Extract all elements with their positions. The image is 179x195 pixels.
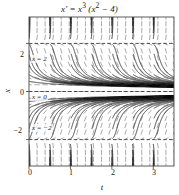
x-axis-label: t (95, 182, 109, 192)
equilibrium-label-middle: x = 0 (31, 93, 48, 101)
y-tick-label-2: 2 (8, 50, 24, 59)
y-tick-label-0: 0 (8, 88, 24, 97)
x-tick-label-1: 1 (64, 168, 78, 177)
equilibrium-label-bottom: x = −2 (31, 124, 53, 132)
x-tick-label-2: 2 (106, 168, 120, 177)
plot-canvas (0, 0, 179, 195)
direction-field-figure: x' = x3 (x2 − 4) x t 2 0 −2 0 1 2 3 x = … (0, 0, 179, 195)
x-tick-label-3: 3 (147, 168, 161, 177)
x-tick-label-0: 0 (23, 168, 37, 177)
y-tick-label-neg2: −2 (6, 126, 22, 135)
equilibrium-label-top: x = 2 (31, 55, 48, 63)
